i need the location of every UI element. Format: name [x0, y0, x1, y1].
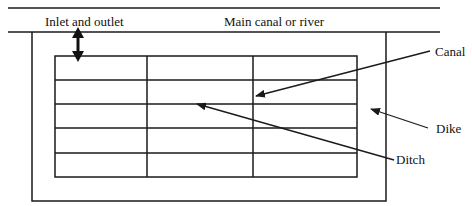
dike-label: Dike — [436, 122, 461, 135]
ditch-label: Ditch — [396, 153, 425, 166]
inlet-outlet-label: Inlet and outlet — [45, 15, 124, 28]
canal-pointer-arrow — [256, 51, 430, 96]
canal-label: Canal — [435, 45, 465, 58]
ditch-pointer-arrow — [197, 104, 394, 160]
dike-pointer-arrow — [371, 109, 428, 128]
main-canal-label: Main canal or river — [224, 15, 324, 28]
field-grid — [55, 56, 357, 177]
field-layout-diagram — [0, 0, 472, 206]
dike-outline — [32, 32, 386, 201]
